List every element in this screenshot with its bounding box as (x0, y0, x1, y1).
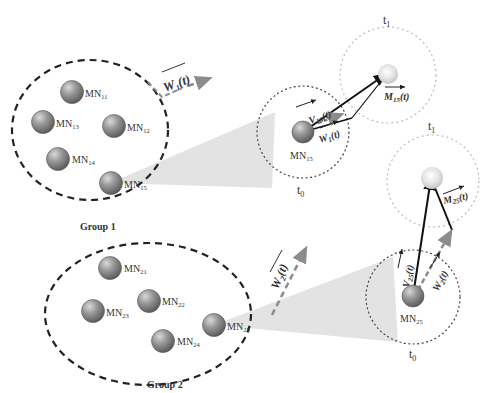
node-mn14 (47, 148, 70, 171)
node-mn11 (61, 81, 84, 104)
w1-label: W1(t) (161, 71, 193, 96)
w2-label: W2(t) (268, 262, 293, 292)
ghost-node-mn25 (421, 167, 443, 189)
t1-label-view2: t1 (428, 119, 435, 135)
t0-label-view2: t0 (409, 347, 416, 363)
displacement-arrow-mn25 (413, 178, 431, 296)
zoom-label-mn15: MN15 (290, 150, 313, 162)
group2-boundary (45, 243, 251, 385)
label-mn14: MN14 (72, 154, 95, 166)
node-mn23 (82, 300, 105, 323)
label-mn21: MN21 (124, 263, 147, 275)
label-mn23: MN23 (106, 307, 129, 319)
label-mn12: MN12 (127, 122, 150, 134)
node-mn15 (100, 172, 123, 195)
node-mn24 (152, 330, 175, 353)
zoom-node-mn25 (402, 285, 424, 307)
motion-arrow-m15 (352, 75, 386, 118)
node-mn12 (103, 115, 126, 138)
group2-label: Group 2 (147, 379, 183, 390)
node-mn22 (138, 290, 161, 313)
w2-zoom-label: W2(t) (430, 268, 452, 293)
node-mn21 (99, 257, 122, 280)
t0-label-view1: t0 (297, 183, 304, 199)
label-mn11: MN11 (85, 88, 107, 100)
mobility-diagram: W1(t) W2(t) MN11 MN13 MN12 MN14 MN15 MN2… (0, 0, 488, 393)
label-mn24: MN24 (177, 336, 200, 348)
ghost-node-mn15 (378, 64, 398, 84)
zoom-label-mn25: MN25 (400, 313, 423, 325)
v15-overline-icon (296, 100, 316, 107)
node-mn25 (203, 314, 226, 337)
node-mn13 (32, 111, 55, 134)
w1-zoom-label: W1(t) (317, 128, 342, 147)
t1-label-view1: t1 (383, 13, 390, 29)
label-mn13: MN13 (56, 118, 79, 130)
m15-label: M15(t) (383, 91, 409, 104)
group1-label: Group 1 (80, 221, 116, 232)
label-mn22: MN22 (162, 296, 185, 308)
